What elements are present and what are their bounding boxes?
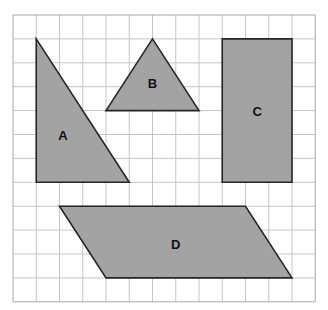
shape-label: B: [148, 76, 157, 91]
shape-label: D: [171, 237, 180, 252]
shape-c: C: [222, 39, 292, 182]
shape-b: B: [106, 39, 199, 111]
shape-d: D: [60, 206, 293, 278]
shapes-grid-diagram: ABCD: [0, 0, 328, 310]
shape-label: A: [58, 128, 68, 143]
shape-label: C: [252, 104, 262, 119]
